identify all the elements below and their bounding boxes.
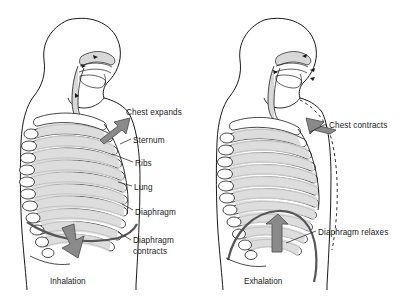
label-diaphragm-contracts: Diaphragm contracts <box>133 235 174 257</box>
label-sternum: Sternum <box>133 135 165 146</box>
airway-inhalation <box>72 52 115 123</box>
panel-exhalation: Chest contracts Diaphragm relaxes Exhala… <box>204 0 408 301</box>
breathing-mechanics-figure: Chest expands Sternum Ribs Lung Diaphrag… <box>0 0 408 301</box>
caption-exhalation: Exhalation <box>244 277 282 286</box>
ribcage-exhalation <box>218 117 320 259</box>
caption-inhalation: Inhalation <box>50 277 86 286</box>
label-diaphragm-relaxes: Diaphragm relaxes <box>318 227 388 238</box>
panel-inhalation: Chest expands Sternum Ribs Lung Diaphrag… <box>0 0 204 301</box>
label-ribs: Ribs <box>135 158 152 169</box>
exhalation-artwork <box>204 0 408 301</box>
label-chest-contracts: Chest contracts <box>329 120 387 131</box>
label-diaphragm: Diaphragm <box>135 207 176 218</box>
airway-exhalation <box>268 52 315 123</box>
label-lung: Lung <box>134 182 153 193</box>
label-chest-expands: Chest expands <box>126 107 182 118</box>
